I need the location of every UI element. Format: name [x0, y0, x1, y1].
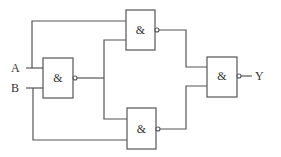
wire-g1-to-g3	[104, 78, 127, 119]
inversion-bubble	[73, 76, 77, 80]
wire-g2-to-g4	[159, 30, 207, 67]
gate-2-nand: &	[126, 10, 159, 50]
gate-1-nand: &	[43, 58, 77, 98]
gate-3-nand: &	[127, 108, 160, 149]
gate-4-symbol: &	[217, 69, 227, 83]
inversion-bubble	[156, 127, 160, 131]
wire-g3-to-g4	[160, 86, 207, 129]
gate-4-nand: &	[207, 57, 241, 97]
logic-circuit-diagram: & & & & A B Y	[0, 0, 281, 157]
gate-1-symbol: &	[53, 71, 63, 85]
input-label-a: A	[11, 61, 20, 75]
output-label-y: Y	[255, 69, 264, 83]
inversion-bubble	[155, 28, 159, 32]
gate-3-symbol: &	[137, 122, 147, 136]
wire-g1-to-g2	[104, 40, 126, 78]
gate-2-symbol: &	[136, 23, 146, 37]
inversion-bubble	[237, 74, 241, 78]
input-label-b: B	[11, 81, 19, 95]
